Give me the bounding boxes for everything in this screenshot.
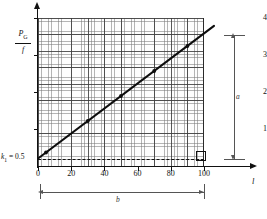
y-tick-mark [34, 92, 38, 93]
plot-grid-area [38, 18, 204, 166]
y-axis-line [37, 6, 38, 168]
x-axis-arrow-icon [250, 163, 257, 169]
x-tick-label-40: 40 [92, 170, 116, 178]
intercept-dashed-line [38, 159, 204, 160]
x-tick-label-0: 0 [26, 170, 50, 178]
x-tick-label-20: 20 [59, 170, 83, 178]
run-dimension-arrow-left-icon [38, 190, 43, 194]
y-axis-title-numerator: PG [11, 29, 35, 42]
x-axis-line [37, 166, 255, 167]
run-dimension-label: b [116, 195, 120, 204]
y-axis-title-denominator: f [11, 45, 35, 54]
y-tick-label-3: 3 [233, 51, 267, 59]
x-axis-title: l [252, 176, 254, 186]
y-tick-mark [34, 18, 38, 19]
run-dimension-line [40, 192, 204, 193]
rise-dimension-label: a [236, 92, 240, 101]
y-tick-label-4: 4 [233, 14, 267, 22]
fraction-bar-icon [15, 43, 31, 44]
x-tick-label-80: 80 [159, 170, 183, 178]
y-axis-title: PG f [11, 29, 35, 54]
intercept-label: k1 = 0.5 [1, 152, 24, 163]
y-tick-label-1: 1 [233, 125, 267, 133]
chart-figure: 4 3 2 1 0 20 40 60 80 100 PG f l k1 = 0.… [0, 0, 267, 219]
x-tick-label-60: 60 [126, 170, 150, 178]
rise-dimension-arrow-down-icon [231, 155, 235, 160]
y-tick-mark [34, 129, 38, 130]
y-axis-arrow-icon [34, 2, 40, 9]
run-dimension-arrow-right-icon [199, 190, 204, 194]
rise-dimension-line [234, 35, 235, 159]
y-tick-mark [34, 55, 38, 56]
rise-dimension-arrow-up-icon [231, 33, 235, 38]
x-tick-label-100: 100 [192, 170, 216, 178]
corner-reference-box [196, 151, 206, 161]
